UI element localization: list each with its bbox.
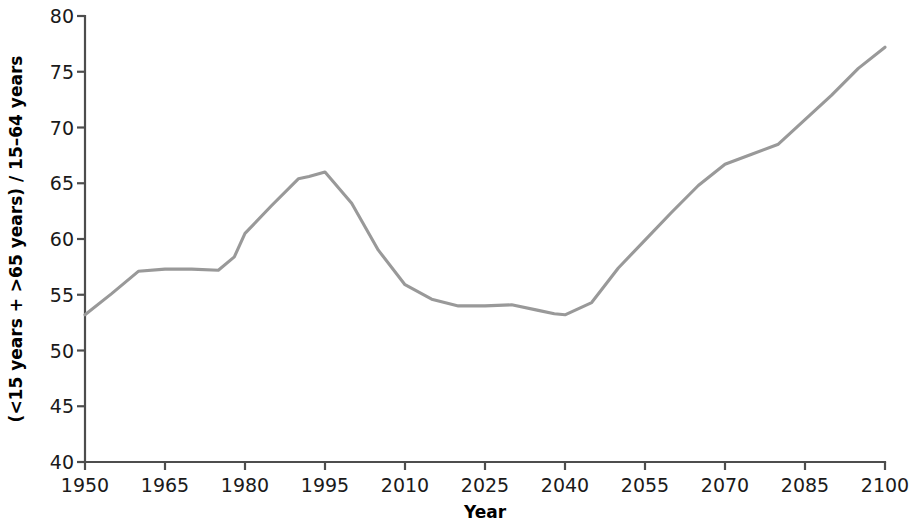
y-tick-label: 75 bbox=[50, 61, 74, 83]
x-tick-label: 2100 bbox=[861, 474, 909, 496]
x-tick-label: 2040 bbox=[541, 474, 589, 496]
y-axis-tick-labels: 80 75 70 65 60 55 50 45 40 bbox=[50, 5, 74, 473]
x-tick-label: 2055 bbox=[621, 474, 669, 496]
y-axis-title: (<15 years + >65 years) / 15–64 years bbox=[6, 56, 26, 423]
y-tick-label: 80 bbox=[50, 5, 74, 27]
x-tick-label: 2010 bbox=[381, 474, 429, 496]
x-axis-title: Year bbox=[463, 502, 507, 522]
y-tick-label: 40 bbox=[50, 451, 74, 473]
line-chart-canvas: 80 75 70 65 60 55 50 45 40 1950 1965 198… bbox=[0, 0, 916, 526]
y-axis-tick-marks bbox=[77, 16, 85, 462]
y-tick-label: 45 bbox=[50, 395, 74, 417]
y-tick-label: 65 bbox=[50, 172, 74, 194]
x-tick-label: 1995 bbox=[301, 474, 349, 496]
y-tick-label: 50 bbox=[50, 340, 74, 362]
chart-figure: 80 75 70 65 60 55 50 45 40 1950 1965 198… bbox=[0, 0, 916, 526]
x-axis-tick-marks bbox=[85, 462, 885, 470]
x-tick-label: 1965 bbox=[141, 474, 189, 496]
y-tick-label: 60 bbox=[50, 228, 74, 250]
y-tick-label: 55 bbox=[50, 284, 74, 306]
data-series-line bbox=[85, 47, 885, 315]
y-tick-label: 70 bbox=[50, 117, 74, 139]
x-tick-label: 2085 bbox=[781, 474, 829, 496]
x-axis-tick-labels: 1950 1965 1980 1995 2010 2025 2040 2055 … bbox=[61, 474, 909, 496]
x-tick-label: 2070 bbox=[701, 474, 749, 496]
x-tick-label: 1980 bbox=[221, 474, 269, 496]
x-tick-label: 2025 bbox=[461, 474, 509, 496]
axis-lines bbox=[85, 16, 885, 462]
x-tick-label: 1950 bbox=[61, 474, 109, 496]
